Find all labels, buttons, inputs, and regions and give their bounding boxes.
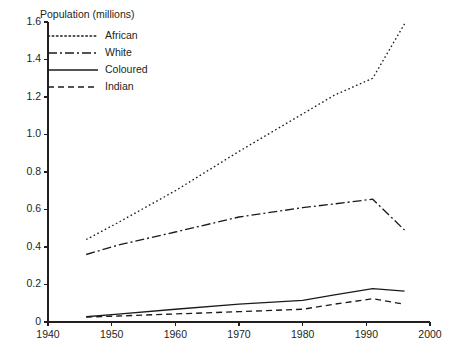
y-axis-tick-labels: 00.20.40.60.81.01.21.41.6	[26, 15, 41, 327]
x-tick-label: 1950	[100, 328, 124, 340]
x-tick-label: 1970	[227, 328, 251, 340]
y-tick-label: 1.6	[26, 15, 41, 27]
x-tick-label: 1980	[291, 328, 315, 340]
x-tick-label: 2000	[418, 328, 442, 340]
y-tick-label: 1.0	[26, 127, 41, 139]
y-tick-label: 0.8	[26, 165, 41, 177]
y-tick-label: 0	[35, 315, 41, 327]
x-tick-label: 1940	[36, 328, 60, 340]
x-tick-label: 1990	[355, 328, 379, 340]
y-tick-label: 0.2	[26, 277, 41, 289]
y-tick-label: 1.2	[26, 90, 41, 102]
chart-axis-title: Population (millions)	[40, 8, 135, 20]
legend-label-coloured: Coloured	[105, 63, 148, 75]
y-tick-label: 0.4	[26, 240, 41, 252]
chart-container: 00.20.40.60.81.01.21.41.6 19401950196019…	[0, 0, 456, 357]
x-tick-label: 1960	[164, 328, 188, 340]
legend-label-indian: Indian	[105, 80, 134, 92]
population-line-chart: 00.20.40.60.81.01.21.41.6 19401950196019…	[0, 0, 456, 357]
legend-label-white: White	[105, 46, 132, 58]
legend-label-african: African	[105, 29, 138, 41]
y-tick-label: 0.6	[26, 202, 41, 214]
y-tick-label: 1.4	[26, 52, 41, 64]
